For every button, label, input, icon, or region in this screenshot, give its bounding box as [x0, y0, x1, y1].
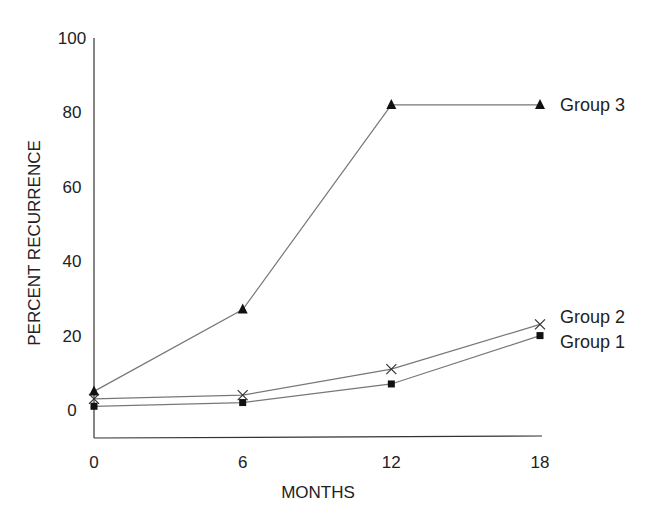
triangle-marker-icon [535, 99, 545, 109]
x-tick-label: 18 [531, 453, 550, 472]
x-axis-title: MONTHS [281, 483, 355, 502]
axes [94, 38, 542, 438]
series-line [94, 336, 540, 407]
square-marker-icon [537, 332, 544, 339]
x-marker-icon [386, 364, 396, 374]
series-group [89, 99, 545, 410]
y-tick-label: 80 [63, 103, 82, 122]
y-tick-label: 60 [63, 178, 82, 197]
x-marker-icon [535, 319, 545, 329]
series-line [94, 324, 540, 398]
square-marker-icon [91, 403, 98, 410]
legend-label: Group 3 [560, 95, 625, 115]
y-tick-label: 20 [63, 327, 82, 346]
y-axis-title: PERCENT RECURRENCE [25, 140, 44, 346]
square-marker-icon [239, 399, 246, 406]
y-axis-ticks: 020406080100 [58, 29, 86, 420]
y-tick-label: 40 [63, 252, 82, 271]
x-axis-ticks: 061218 [89, 453, 549, 472]
x-axis-line [94, 436, 542, 438]
line-chart: 020406080100 061218 PERCENT RECURRENCE M… [0, 0, 655, 512]
x-tick-label: 6 [238, 453, 247, 472]
x-tick-label: 0 [89, 453, 98, 472]
series-line [94, 105, 540, 391]
y-tick-label: 100 [58, 29, 86, 48]
series-group-2 [89, 319, 545, 403]
square-marker-icon [388, 380, 395, 387]
series-group-3 [89, 99, 545, 395]
y-tick-label: 0 [67, 401, 76, 420]
legend-label: Group 2 [560, 307, 625, 327]
triangle-marker-icon [89, 385, 99, 395]
triangle-marker-icon [386, 99, 396, 109]
legend-label: Group 1 [560, 332, 625, 352]
legend: Group 3Group 2Group 1 [560, 95, 625, 352]
x-tick-label: 12 [382, 453, 401, 472]
